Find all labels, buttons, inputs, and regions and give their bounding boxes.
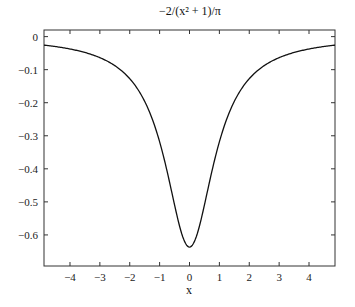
y-tick-label: −0.6 bbox=[18, 229, 38, 241]
y-tick-label: −0.2 bbox=[18, 97, 38, 109]
x-tick-label: 3 bbox=[276, 271, 282, 283]
x-tick-label: −4 bbox=[64, 271, 76, 283]
y-tick-label: 0 bbox=[33, 31, 39, 43]
x-tick-label: −1 bbox=[154, 271, 166, 283]
plot-area: −4−3−2−1012340−0.1−0.2−0.3−0.4−0.5−0.6 bbox=[0, 0, 355, 307]
x-tick-label: 4 bbox=[306, 271, 312, 283]
y-tick-label: −0.4 bbox=[18, 163, 38, 175]
axes-frame bbox=[44, 30, 335, 266]
y-tick-label: −0.3 bbox=[18, 130, 38, 142]
y-tick-label: −0.5 bbox=[18, 196, 38, 208]
x-tick-label: 1 bbox=[217, 271, 223, 283]
function-curve bbox=[44, 45, 335, 247]
x-tick-label: 0 bbox=[187, 271, 193, 283]
x-tick-label: −3 bbox=[94, 271, 106, 283]
x-tick-label: 2 bbox=[247, 271, 253, 283]
y-tick-label: −0.1 bbox=[18, 64, 38, 76]
x-axis-label: x bbox=[186, 283, 192, 298]
x-tick-label: −2 bbox=[124, 271, 136, 283]
